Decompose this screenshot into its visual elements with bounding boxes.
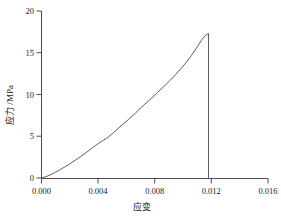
x-tick-label-1: 0.004	[88, 186, 108, 196]
x-tick-label-2: 0.008	[145, 186, 164, 196]
y-tick-label-5: 5	[30, 131, 34, 141]
y-axis-title: 应力 /MPa	[4, 85, 15, 125]
x-tick-label-0: 0.000	[32, 186, 51, 196]
y-tick-label-10: 10	[26, 90, 35, 100]
y-tick-label-0: 0	[30, 173, 34, 183]
stress-strain-chart-figure: 20 15 10 5 0 0.000 0.004 0.008 0.012 0.0…	[0, 0, 281, 218]
chart-canvas: 20 15 10 5 0 0.000 0.004 0.008 0.012 0.0…	[0, 0, 281, 218]
x-tick-label-4: 0.016	[258, 186, 277, 196]
stress-strain-curve	[42, 34, 209, 178]
y-tick-label-15: 15	[26, 48, 35, 58]
x-tick-label-3: 0.012	[202, 186, 221, 196]
y-tick-label-20: 20	[26, 6, 35, 16]
x-axis-title: 应变	[133, 201, 151, 212]
